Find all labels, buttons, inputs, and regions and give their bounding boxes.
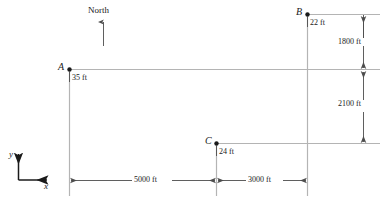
elevation-label-a: 35 ft: [72, 74, 87, 82]
elevation-label-c: 24 ft: [219, 148, 234, 156]
survey-diagram: North A 35 ft B 22 ft C 24 ft 1800 ft 21…: [0, 0, 390, 198]
diagram-canvas: [0, 0, 390, 198]
x-axis-label: x: [44, 182, 48, 191]
point-label-c: C: [205, 136, 212, 146]
dimension-label-5000: 5000 ft: [134, 176, 157, 184]
point-label-b: B: [296, 7, 302, 17]
y-axis-label: y: [9, 150, 13, 159]
point-marker-b: [305, 12, 309, 16]
dimension-label-1800: 1800 ft: [338, 38, 361, 46]
dimension-label-2100: 2100 ft: [338, 100, 361, 108]
point-marker-c: [214, 141, 218, 145]
dimension-label-3000: 3000 ft: [248, 176, 271, 184]
point-label-a: A: [58, 62, 64, 72]
elevation-label-b: 22 ft: [310, 19, 325, 27]
point-marker-a: [67, 67, 71, 71]
north-label: North: [88, 6, 109, 15]
